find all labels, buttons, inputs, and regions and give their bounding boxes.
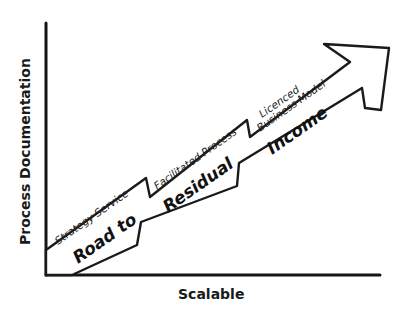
x-axis-label: Scalable (178, 286, 244, 302)
growth-diagram: Strategy Service Facilitated Process Lic… (0, 0, 407, 323)
y-axis-label: Process Documentation (17, 58, 33, 245)
diagram-canvas: Strategy Service Facilitated Process Lic… (0, 0, 407, 323)
